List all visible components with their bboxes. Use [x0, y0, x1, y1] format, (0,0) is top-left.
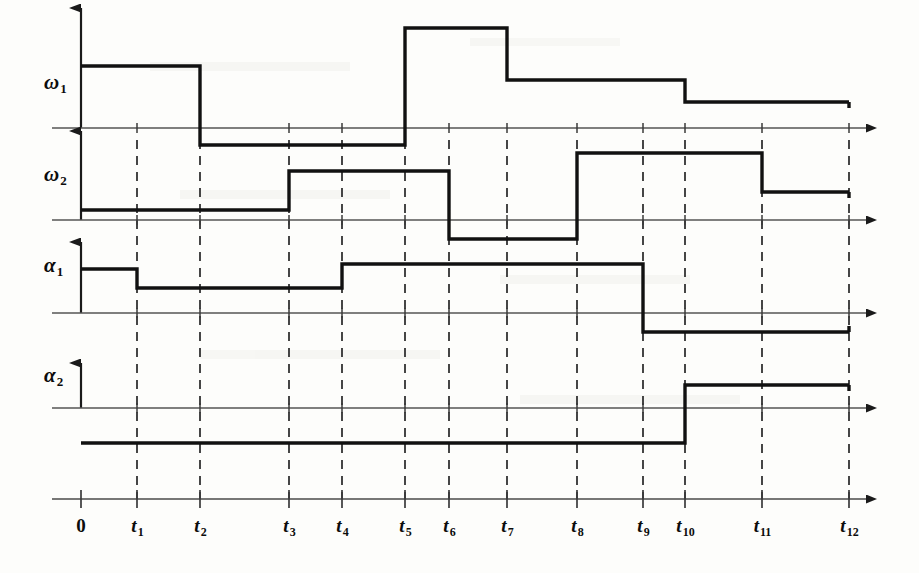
- time-label-subscript: 6: [450, 525, 456, 539]
- time-label-t3: t3: [283, 515, 294, 537]
- time-label-base: t: [131, 515, 136, 536]
- time-label-base: t: [336, 515, 341, 536]
- time-label-t8: t8: [571, 515, 582, 537]
- time-label-base: t: [676, 515, 681, 536]
- paper-showthrough: [150, 38, 740, 404]
- waveform-α₂: [81, 385, 849, 443]
- signal-label-w1: ω1: [44, 70, 66, 95]
- time-label-subscript: 5: [406, 525, 412, 539]
- time-label-subscript: 11: [760, 525, 771, 539]
- time-label-t9: t9: [637, 515, 648, 537]
- signal-label-a1: α1: [44, 253, 62, 278]
- signal-label-a2: α2: [44, 363, 62, 388]
- time-label-t4: t4: [336, 515, 347, 537]
- time-label-base: t: [840, 515, 845, 536]
- waveform-traces: [81, 28, 849, 443]
- timing-diagram-figure: ω1 ω2 α1 α2 0t1t2t3t4t5t6t7t8t9t10t11t12: [0, 0, 919, 573]
- time-label-subscript: 2: [201, 525, 207, 539]
- time-label-base: t: [399, 515, 404, 536]
- time-label-base: 0: [76, 515, 86, 536]
- time-label-subscript: 1: [138, 525, 144, 539]
- time-label-t2: t2: [194, 515, 205, 537]
- time-label-base: t: [571, 515, 576, 536]
- time-label-subscript: 8: [578, 525, 584, 539]
- timing-diagram-canvas: [0, 0, 919, 573]
- time-label-t6: t6: [443, 515, 454, 537]
- time-label-subscript: 3: [290, 525, 296, 539]
- time-label-subscript: 12: [847, 525, 859, 539]
- time-label-t10: t10: [676, 515, 693, 537]
- time-label-subscript: 9: [644, 525, 650, 539]
- time-label-base: t: [501, 515, 506, 536]
- time-label-base: t: [194, 515, 199, 536]
- time-label-origin: 0: [76, 515, 86, 537]
- time-label-base: t: [443, 515, 448, 536]
- time-label-subscript: 7: [508, 525, 514, 539]
- time-label-subscript: 10: [683, 525, 695, 539]
- time-label-t7: t7: [501, 515, 512, 537]
- time-label-t11: t11: [754, 515, 771, 537]
- time-label-base: t: [754, 515, 759, 536]
- time-label-t1: t1: [131, 515, 142, 537]
- time-label-subscript: 4: [343, 525, 349, 539]
- time-label-base: t: [283, 515, 288, 536]
- time-label-t12: t12: [840, 515, 857, 537]
- signal-label-w2: ω2: [44, 162, 66, 187]
- time-label-t5: t5: [399, 515, 410, 537]
- waveform-α₁: [81, 264, 849, 332]
- time-label-base: t: [637, 515, 642, 536]
